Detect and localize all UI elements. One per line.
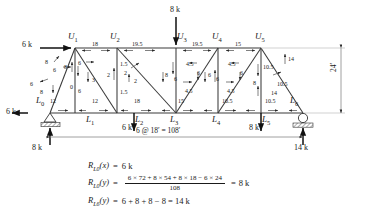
member-force-label: 6	[174, 76, 177, 82]
member-force-label: 10.5	[263, 64, 274, 70]
pin-support-L0	[41, 113, 60, 127]
member-force-label: 0	[70, 84, 73, 90]
member-force-label: 6	[78, 60, 81, 66]
member-force-label: 10.5	[265, 98, 276, 104]
member-force-label: 1.5	[120, 61, 128, 67]
truss-diagram-stage: U1 U2 U3 U4 U5 L0 L1 L2 L3 L4 L5 L6 6 @ …	[0, 0, 365, 220]
member-force-label: 10.5	[277, 81, 288, 87]
equation-rl0y: RL0(y) = 6 × 72 + 8 × 54 + 8 × 18 − 6 × …	[88, 174, 298, 192]
applied-load-label: 8 k	[170, 6, 180, 14]
member-force-label: 8	[40, 89, 43, 95]
node-label-L4: L4	[212, 115, 220, 126]
applied-load-label: 6 k	[22, 41, 32, 49]
member-force-label: 15	[235, 41, 241, 47]
member-force-label: 4.5	[228, 61, 236, 67]
reaction-equations: RL0(x) = 6 k RL0(y) = 6 × 72 + 8 × 54 + …	[88, 160, 298, 209]
member-force-label: 14	[288, 56, 294, 62]
node-label-L3: L3	[170, 115, 178, 126]
member-force-label: 6	[208, 72, 211, 78]
applied-load-label: 14 k	[294, 144, 308, 152]
member-force-label: 6	[30, 81, 33, 87]
member-force-label: 19.5	[132, 41, 143, 47]
span-dimension-label: 6 @ 18′ = 108′	[136, 127, 180, 135]
member-force-label: 4.5	[186, 61, 194, 67]
member-force-label: 6	[216, 76, 219, 82]
node-label-L0: L0	[36, 96, 44, 107]
node-label-U3: U3	[177, 32, 187, 43]
member-force-label: 3	[92, 77, 95, 83]
node-label-U1: U1	[68, 32, 78, 43]
member-force-label: 6	[240, 70, 243, 76]
member-force-label: 19.5	[192, 41, 203, 47]
member-force-label: 12	[92, 98, 98, 104]
member-force-label: 6	[197, 70, 200, 76]
member-force-label: 8	[45, 59, 48, 65]
member-force-label: 2	[107, 72, 110, 78]
node-label-L6: L6	[290, 96, 298, 107]
applied-load-label: 8 k	[249, 124, 259, 132]
node-label-L5: L5	[262, 115, 270, 126]
member-force-label: 8	[64, 64, 67, 70]
member-force-label: 2	[124, 70, 127, 76]
fraction: 6 × 72 + 8 × 54 + 8 × 18 − 6 × 24 108	[125, 174, 225, 192]
member-force-label: 4.5	[227, 88, 235, 94]
member-force-label: 1.5	[120, 89, 128, 95]
member-force-label: 8	[253, 80, 256, 86]
member-force-label: 2	[134, 78, 137, 84]
node-label-U4: U4	[212, 32, 222, 43]
member-force-label: 14	[271, 90, 277, 96]
member-force-label: 18	[92, 41, 98, 47]
applied-load-label: 8 k	[32, 144, 42, 152]
applied-load-label: 6 k	[122, 124, 132, 132]
node-label-U5: U5	[255, 32, 265, 43]
member-force-label: 15	[178, 98, 184, 104]
node-label-U2: U2	[110, 32, 120, 43]
member-force-label: 4.5	[185, 88, 193, 94]
member-force-label: 12	[50, 98, 56, 104]
roller-support-L6	[293, 113, 313, 127]
height-dimension-label: 24′	[330, 63, 338, 72]
member-force-label: 8	[165, 72, 168, 78]
member-force-label: 10.5	[222, 98, 233, 104]
node-label-L2: L2	[135, 115, 143, 126]
equation-rl0x: RL0(x) = 6 k	[88, 160, 298, 172]
member-force-label: 18	[134, 98, 140, 104]
node-label-L1: L1	[86, 115, 94, 126]
member-force-label: 6	[53, 67, 56, 73]
member-force-label: 6	[78, 88, 81, 94]
applied-load-label: 6 k	[6, 108, 16, 116]
equation-rl6y: RL6(y) = 6 + 8 + 8 − 8 = 14 k	[88, 195, 298, 207]
